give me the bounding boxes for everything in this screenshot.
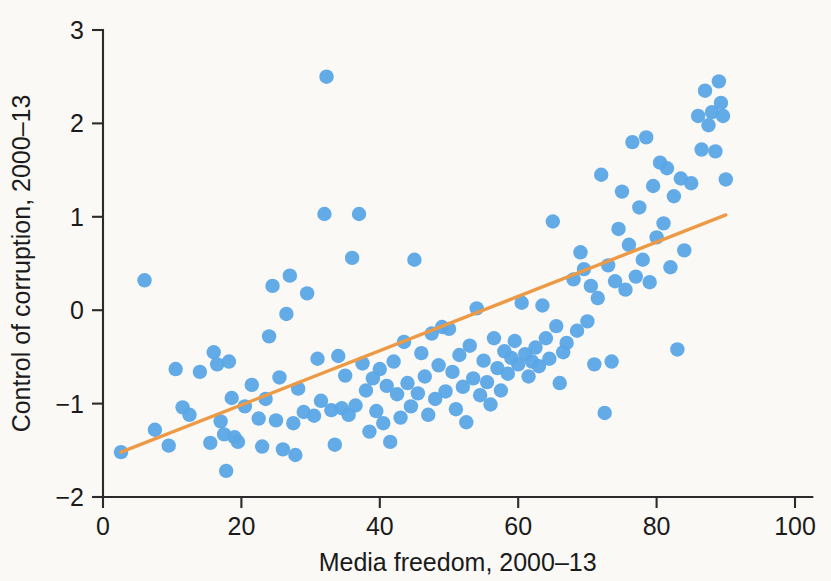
scatter-point — [636, 253, 650, 267]
scatter-point — [615, 184, 629, 198]
scatter-point — [639, 130, 653, 144]
scatter-point — [203, 436, 217, 450]
scatter-point — [348, 398, 362, 412]
x-axis-tick-label: 40 — [366, 512, 394, 540]
scatter-point — [319, 70, 333, 84]
scatter-point — [542, 352, 556, 366]
scatter-point — [663, 260, 677, 274]
scatter-point — [573, 245, 587, 259]
x-axis-tick-label: 60 — [504, 512, 532, 540]
scatter-point — [414, 346, 428, 360]
scatter-point — [386, 354, 400, 368]
y-axis-tick-label: 3 — [70, 16, 84, 44]
scatter-point — [660, 161, 674, 175]
scatter-point — [231, 435, 245, 449]
scatter-point — [418, 369, 432, 383]
scatter-point — [431, 358, 445, 372]
scatter-point — [449, 402, 463, 416]
scatter-point — [677, 243, 691, 257]
scatter-point — [480, 375, 494, 389]
scatter-point — [521, 369, 535, 383]
scatter-point — [580, 314, 594, 328]
y-axis-tick-label: 0 — [70, 296, 84, 324]
scatter-point — [604, 354, 618, 368]
scatter-point — [148, 423, 162, 437]
x-axis-tick-label: 80 — [643, 512, 671, 540]
x-axis-title: Media freedom, 2000–13 — [319, 548, 597, 576]
scatter-point — [338, 368, 352, 382]
scatter-point — [476, 353, 490, 367]
scatter-point — [466, 371, 480, 385]
scatter-point — [331, 349, 345, 363]
scatter-point — [670, 342, 684, 356]
scatter-point — [618, 282, 632, 296]
scatter-point — [288, 448, 302, 462]
x-axis-tick-label: 100 — [774, 512, 816, 540]
scatter-point — [276, 442, 290, 456]
scatter-point — [591, 291, 605, 305]
scatter-point — [137, 273, 151, 287]
scatter-point — [390, 387, 404, 401]
scatter-point — [438, 384, 452, 398]
scatter-point — [584, 279, 598, 293]
scatter-point — [404, 399, 418, 413]
scatter-point — [262, 329, 276, 343]
scatter-point — [222, 354, 236, 368]
x-axis-tick-label: 0 — [96, 512, 110, 540]
scatter-point — [487, 331, 501, 345]
scatter-point — [698, 84, 712, 98]
scatter-point — [245, 378, 259, 392]
scatter-point — [459, 415, 473, 429]
y-axis-tick-label: −1 — [55, 390, 84, 418]
scatter-point — [625, 135, 639, 149]
scatter-plot-figure: −2−10123020406080100 Media freedom, 2000… — [0, 0, 831, 581]
scatter-point — [708, 144, 722, 158]
scatter-point — [594, 168, 608, 182]
scatter-point — [225, 391, 239, 405]
scatter-point — [714, 96, 728, 110]
scatter-point — [539, 331, 553, 345]
scatter-point — [667, 189, 681, 203]
y-axis-tick-label: −2 — [55, 483, 84, 511]
scatter-point — [694, 142, 708, 156]
scatter-point — [400, 376, 414, 390]
scatter-point — [632, 200, 646, 214]
scatter-point — [719, 172, 733, 186]
scatter-point — [712, 74, 726, 88]
scatter-point — [317, 207, 331, 221]
scatter-point — [421, 408, 435, 422]
y-axis-tick-label: 1 — [70, 203, 84, 231]
scatter-point — [310, 352, 324, 366]
scatter-point — [411, 386, 425, 400]
scatter-point — [162, 438, 176, 452]
scatter-point — [286, 416, 300, 430]
scatter-point — [359, 383, 373, 397]
scatter-point — [656, 216, 670, 230]
scatter-point — [369, 404, 383, 418]
scatter-point — [611, 222, 625, 236]
scatter-point — [193, 365, 207, 379]
scatter-point — [549, 319, 563, 333]
scatter-point — [393, 410, 407, 424]
scatter-point — [207, 345, 221, 359]
scatter-point — [376, 416, 390, 430]
scatter-point — [716, 109, 730, 123]
scatter-point — [265, 279, 279, 293]
scatter-point — [373, 362, 387, 376]
scatter-point — [307, 409, 321, 423]
scatter-point — [352, 207, 366, 221]
scatter-point — [629, 269, 643, 283]
scatter-point — [535, 298, 549, 312]
scatter-point — [559, 336, 573, 350]
scatter-point — [598, 406, 612, 420]
y-axis-tick-label: 2 — [70, 109, 84, 137]
scatter-point — [463, 338, 477, 352]
scatter-point — [272, 370, 286, 384]
scatter-point — [445, 365, 459, 379]
scatter-point — [182, 408, 196, 422]
y-axis-title: Control of corruption, 2000–13 — [7, 95, 35, 433]
scatter-point — [300, 286, 314, 300]
scatter-point — [553, 376, 567, 390]
scatter-point — [168, 362, 182, 376]
scatter-point — [587, 357, 601, 371]
